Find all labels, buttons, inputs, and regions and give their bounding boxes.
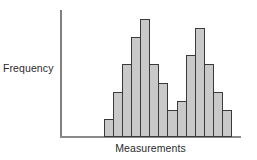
y-axis-label: Frequency bbox=[3, 62, 59, 74]
y-axis-line bbox=[60, 10, 62, 138]
x-axis-label: Measurements bbox=[60, 142, 241, 154]
histogram-bar bbox=[222, 110, 232, 137]
histogram-figure: Frequency Measurements bbox=[0, 0, 257, 160]
histogram-bars bbox=[104, 10, 231, 137]
